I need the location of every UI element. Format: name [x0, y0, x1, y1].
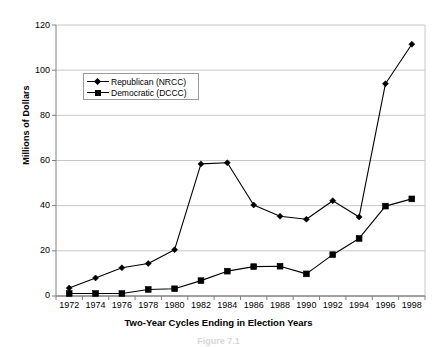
data-point-republican — [356, 214, 362, 220]
figure-caption: Figure 7.1 — [0, 336, 437, 347]
legend-label: Democratic (DCCC) — [109, 88, 187, 98]
data-point-republican — [382, 81, 388, 87]
data-point-democratic — [277, 263, 283, 269]
data-point-democratic — [303, 271, 309, 277]
data-point-democratic — [198, 278, 204, 284]
x-axis-title: Two-Year Cycles Ending in Election Years — [0, 317, 437, 328]
data-point-democratic — [66, 291, 72, 297]
square-marker-icon — [87, 87, 109, 98]
data-point-democratic — [145, 287, 151, 293]
data-point-republican — [93, 275, 99, 281]
data-point-republican — [119, 265, 125, 271]
data-point-republican — [277, 213, 283, 219]
x-tick-label: 1998 — [392, 301, 432, 310]
data-point-republican — [145, 260, 151, 266]
data-point-republican — [409, 41, 415, 47]
data-point-democratic — [172, 286, 178, 292]
chart-legend: Republican (NRCC) Democratic (DCCC) — [83, 73, 199, 100]
data-point-republican — [66, 285, 72, 291]
legend-item-republican: Republican (NRCC) — [87, 76, 195, 87]
data-point-democratic — [409, 196, 415, 202]
data-point-democratic — [224, 268, 230, 274]
data-point-democratic — [383, 203, 389, 209]
chart-figure: Millions of Dollars 120 100 80 60 40 20 … — [0, 0, 437, 347]
legend-item-democratic: Democratic (DCCC) — [87, 87, 195, 98]
data-point-democratic — [119, 291, 125, 297]
data-point-democratic — [93, 291, 99, 297]
plot-area — [0, 0, 437, 347]
data-point-republican — [251, 202, 257, 208]
diamond-marker-icon — [87, 76, 109, 87]
data-point-democratic — [330, 252, 336, 258]
data-point-republican — [172, 247, 178, 253]
data-point-democratic — [356, 236, 362, 242]
data-point-democratic — [251, 264, 257, 270]
legend-label: Republican (NRCC) — [109, 77, 186, 87]
data-point-republican — [198, 161, 204, 167]
x-axis-tick-labels: 1972197419761978198019821984198619881990… — [0, 301, 437, 315]
